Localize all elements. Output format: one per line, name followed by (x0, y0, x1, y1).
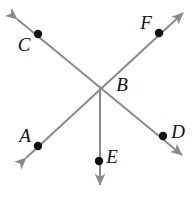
point-label-e: E (105, 146, 118, 167)
point-label-f: F (139, 12, 152, 33)
point-dot-a (34, 142, 42, 150)
point-label-c: C (18, 34, 31, 55)
geometry-figure: A B C D E F (0, 0, 196, 199)
point-dot-f (155, 29, 163, 37)
point-dot-e (95, 157, 103, 165)
point-label-a: A (17, 125, 31, 146)
point-dot-c (34, 30, 42, 38)
point-dot-d (159, 132, 167, 140)
point-label-d: D (170, 121, 185, 142)
point-label-b: B (116, 74, 128, 95)
geometry-canvas: A B C D E F (0, 0, 196, 199)
